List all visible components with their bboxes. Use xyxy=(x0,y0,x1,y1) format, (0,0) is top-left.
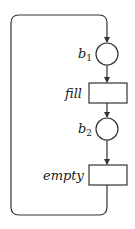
transition-empty-label: empty xyxy=(43,168,85,183)
place-b2 xyxy=(96,118,118,140)
transition-fill-label: fill xyxy=(64,86,82,101)
petri-net-diagram: b1 fill b2 empty xyxy=(0,0,135,229)
place-b2-label: b2 xyxy=(78,121,92,138)
place-b1 xyxy=(96,43,118,65)
transition-empty xyxy=(89,165,127,185)
place-b1-label: b1 xyxy=(78,46,92,63)
transition-fill xyxy=(89,83,127,103)
